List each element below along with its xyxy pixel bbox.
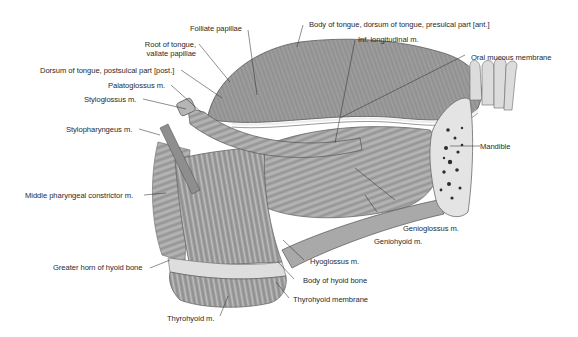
label-styloglossus: Styloglossus m. [84,95,136,104]
label-greater-horn-hyoid: Greater horn of hyoid bone [53,263,142,272]
label-palatoglossus: Palatoglossus m. [108,81,165,90]
label-thyrohyoid-membrane: Thyrohyoid membrane [293,295,368,304]
label-oral-mucous-membrane: Oral mucous membrane [471,53,551,62]
tongue-anatomy-figure: Folliate papillae Root of tongue, vallat… [0,0,578,337]
anatomy-illustration [0,0,578,337]
label-middle-pharyngeal-constrictor: Middle pharyngeal constrictor m. [25,191,133,200]
label-folliate-papillae: Folliate papillae [190,24,242,33]
label-dorsum-postsulcal: Dorsum of tongue, postsulcal part [post.… [40,66,174,75]
label-inf-longitudinal: Inf. longitudinal m. [358,35,419,44]
label-thyrohyoid-muscle: Thyrohyoid m. [167,314,214,323]
label-mandible: Mandible [480,142,510,151]
label-root-of-tongue-line2: vallate papillae [140,49,196,58]
label-stylopharyngeus: Stylopharyngeus m. [66,125,132,134]
label-hyoglossus: Hyoglossus m. [310,257,359,266]
label-geniohyoid: Geniohyoid m. [374,237,422,246]
label-root-of-tongue: Root of tongue, vallate papillae [140,40,196,58]
label-body-of-hyoid-bone: Body of hyoid bone [303,276,367,285]
label-genioglossus: Genioglossus m. [403,224,459,233]
label-body-of-tongue: Body of tongue, dorsum of tongue, presul… [309,20,489,29]
label-root-of-tongue-line1: Root of tongue, [140,40,196,49]
